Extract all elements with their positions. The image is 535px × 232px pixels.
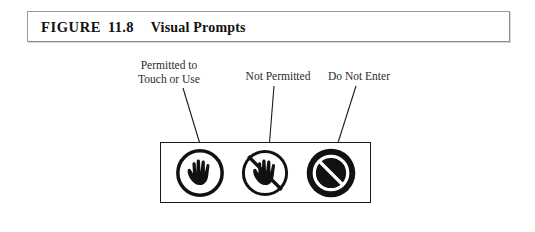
label-do-not-enter-line1: Do Not Enter	[318, 70, 400, 84]
label-not-permitted-line1: Not Permitted	[238, 70, 318, 84]
caption-figure-number: 11.8	[108, 18, 134, 35]
no-entry-filled-svg	[304, 146, 358, 200]
icon-row	[161, 143, 370, 202]
label-permitted-to-touch-or-use: Permitted to Touch or Use	[117, 59, 221, 86]
figure-container: FIGURE 11.8 Visual Prompts Permitted to …	[0, 0, 535, 232]
hand-with-slash-svg	[238, 146, 292, 200]
leader-line-permitted	[183, 88, 202, 149]
leader-line-not-permitted	[269, 86, 274, 149]
leader-line-do-not-enter	[336, 86, 356, 149]
open-hand-in-circle-svg	[173, 146, 227, 200]
caption-figure-word: FIGURE	[41, 18, 101, 35]
figure-caption-bar: FIGURE 11.8 Visual Prompts	[27, 11, 510, 42]
hand-with-slash-icon	[238, 146, 292, 200]
caption-figure-title: Visual Prompts	[151, 19, 246, 35]
icon-panel	[160, 142, 371, 203]
no-entry-filled-icon	[304, 146, 358, 200]
caption-text-group: FIGURE 11.8 Visual Prompts	[41, 18, 246, 35]
label-do-not-enter: Do Not Enter	[318, 70, 400, 84]
label-permitted-line2: Touch or Use	[117, 73, 221, 87]
label-permitted-line1: Permitted to	[117, 59, 221, 73]
label-not-permitted: Not Permitted	[238, 70, 318, 84]
open-hand-in-circle-icon	[173, 146, 227, 200]
